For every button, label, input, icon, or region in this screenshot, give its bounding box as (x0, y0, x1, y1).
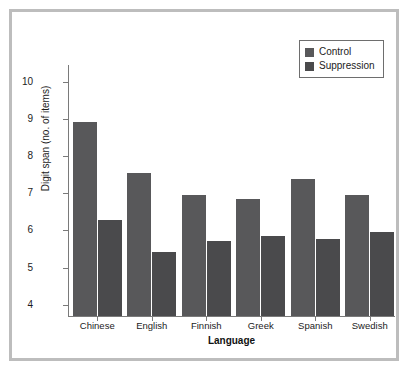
plot-area: 45678910 Digit span (no. of items) Chine… (12, 12, 396, 358)
bar-greek-suppression[interactable] (261, 236, 285, 316)
bar-spanish-control[interactable] (291, 179, 315, 316)
legend-label: Control (319, 47, 351, 57)
bar-group (73, 65, 122, 316)
bar-english-control[interactable] (127, 173, 151, 316)
legend-swatch-icon (305, 48, 314, 57)
bar-group (236, 65, 285, 316)
y-tick-label: 4 (3, 300, 33, 310)
y-axis-title: Digit span (no. of items) (40, 44, 51, 234)
bar-chinese-suppression[interactable] (98, 220, 122, 316)
bar-finnish-suppression[interactable] (207, 241, 231, 316)
chart-legend: ControlSuppression (299, 40, 384, 78)
y-tick-label: 8 (3, 151, 33, 161)
bar-chinese-control[interactable] (73, 122, 97, 316)
bar-group (345, 65, 394, 316)
bar-greek-control[interactable] (236, 199, 260, 316)
bar-english-suppression[interactable] (152, 252, 176, 316)
x-tick-label-chinese: Chinese (67, 321, 127, 331)
x-tick-label-english: English (122, 321, 182, 331)
x-tick-label-greek: Greek (231, 321, 291, 331)
legend-item-control[interactable]: Control (305, 45, 375, 59)
x-axis-title: Language (68, 335, 395, 346)
bar-finnish-control[interactable] (182, 195, 206, 316)
y-tick-label: 9 (3, 114, 33, 124)
bar-group (127, 65, 176, 316)
x-tick-label-finnish: Finnish (176, 321, 236, 331)
bar-swedish-suppression[interactable] (370, 232, 394, 316)
bar-swedish-control[interactable] (345, 195, 369, 316)
bar-group (291, 65, 340, 316)
y-tick-label: 10 (3, 77, 33, 87)
bar-spanish-suppression[interactable] (316, 239, 340, 316)
x-axis-line (68, 316, 395, 317)
bar-group (182, 65, 231, 316)
bars-layer (68, 65, 395, 316)
legend-label: Suppression (319, 61, 375, 71)
y-tick-label: 5 (3, 263, 33, 273)
x-tick-label-swedish: Swedish (340, 321, 400, 331)
y-tick-label: 7 (3, 188, 33, 198)
y-tick-label: 6 (3, 225, 33, 235)
figure-frame: 45678910 Digit span (no. of items) Chine… (9, 9, 399, 361)
legend-swatch-icon (305, 62, 314, 71)
x-tick-label-spanish: Spanish (285, 321, 345, 331)
legend-item-suppression[interactable]: Suppression (305, 59, 375, 73)
